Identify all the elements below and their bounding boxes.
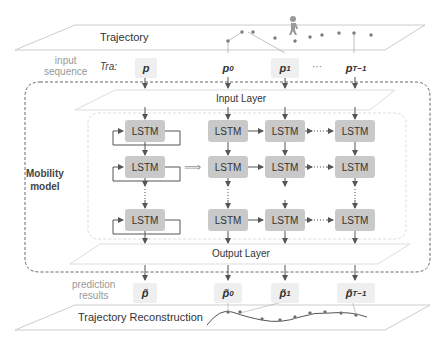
- lstm-cell: LSTM: [125, 156, 165, 178]
- input-ellipsis: ···: [312, 61, 322, 72]
- tra-prefix: Tra:: [100, 61, 117, 72]
- input-sequence-label: input sequence: [44, 55, 87, 77]
- trajectory-title: Trajectory: [100, 31, 149, 43]
- lstm-cell: LSTM: [265, 156, 305, 178]
- prediction-label-line2: results: [72, 290, 115, 301]
- lstm-cell: LSTM: [208, 156, 248, 178]
- output-point-p0: p̃0: [214, 283, 242, 303]
- input-label-line1: input: [44, 55, 87, 66]
- lstm-cell: LSTM: [208, 209, 248, 231]
- lstm-cell: LSTM: [335, 209, 375, 231]
- output-point-p: p̃: [133, 283, 157, 303]
- input-point-p: p: [135, 58, 157, 78]
- input-label-line2: sequence: [44, 66, 87, 77]
- output-layer-label: Output Layer: [212, 248, 270, 259]
- lstm-cell: LSTM: [125, 209, 165, 231]
- input-point-p1: p1: [271, 58, 299, 78]
- lstm-cell: LSTM: [125, 120, 165, 142]
- input-point-p0: p0: [214, 58, 242, 78]
- output-point-pT-1: p̃T−1: [337, 283, 375, 303]
- lstm-cell: LSTM: [208, 120, 248, 142]
- output-point-p1: p̃1: [271, 283, 299, 303]
- unroll-arrow-icon: ⟹: [184, 160, 201, 174]
- input-point-pT-1: pT−1: [338, 58, 374, 78]
- lstm-cell: LSTM: [265, 209, 305, 231]
- reconstruction-title: Trajectory Reconstruction: [78, 311, 203, 323]
- lstm-cell: LSTM: [335, 156, 375, 178]
- mobility-model-label: Mobility model: [26, 167, 64, 193]
- prediction-label-line1: prediction: [72, 279, 115, 290]
- input-layer-label: Input Layer: [216, 93, 266, 104]
- mobility-label-line1: Mobility: [26, 167, 64, 180]
- lstm-cell: LSTM: [265, 120, 305, 142]
- trajectory-plane: [15, 25, 425, 50]
- prediction-results-label: prediction results: [72, 279, 115, 301]
- lstm-cell: LSTM: [335, 120, 375, 142]
- mobility-label-line2: model: [26, 180, 64, 193]
